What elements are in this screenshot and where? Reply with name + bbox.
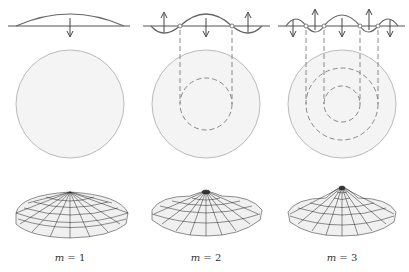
mode-2-label: m = 2 bbox=[166, 252, 246, 263]
membrane-modes-diagram bbox=[0, 0, 409, 272]
label-variable: m bbox=[191, 252, 200, 263]
mode-2-profile bbox=[143, 12, 270, 37]
label-equation: = 1 bbox=[64, 252, 85, 263]
mode-2-surface bbox=[152, 190, 262, 236]
label-variable: m bbox=[55, 252, 64, 263]
mode-3-label: m = 3 bbox=[302, 252, 382, 263]
mode-3-disk bbox=[288, 30, 396, 158]
mode-3-surface bbox=[288, 186, 396, 236]
label-equation: = 3 bbox=[336, 252, 357, 263]
mode-3-profile bbox=[278, 9, 405, 37]
mode-1-profile bbox=[8, 14, 130, 37]
mode-1-disk bbox=[16, 50, 124, 158]
mode-2-disk bbox=[152, 30, 260, 158]
mode-1-surface bbox=[16, 192, 128, 238]
mode-1-label: m = 1 bbox=[30, 252, 110, 263]
label-equation: = 2 bbox=[200, 252, 221, 263]
label-variable: m bbox=[327, 252, 336, 263]
